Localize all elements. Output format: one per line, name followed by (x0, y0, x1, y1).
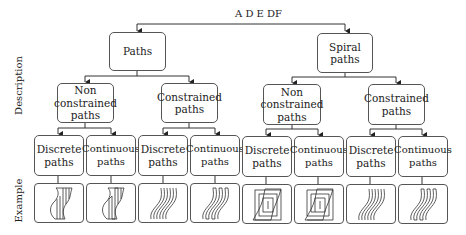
example-zigzag-discrete (34, 183, 84, 223)
example-spiral-discrete (242, 184, 292, 224)
zigzag-continuous-icon (87, 184, 136, 223)
spiral-continuous-icon (295, 185, 344, 224)
node-label: Discrete paths (349, 144, 394, 169)
node-label: Continuous paths (186, 143, 244, 168)
node-label: Paths (123, 45, 152, 58)
zigzag-discrete-icon (35, 184, 84, 223)
row-label-example: Example (13, 183, 24, 223)
node-continuous-paths: Continuous paths (398, 136, 448, 177)
node-spiral-constrained-paths: Constrained paths (368, 84, 425, 125)
top-label: A D E DF (235, 8, 282, 19)
node-spiral-paths: Spiral paths (317, 33, 373, 73)
example-zigzag-continuous (86, 183, 136, 223)
spiral-discrete-icon (243, 185, 292, 224)
node-label: Discrete paths (141, 143, 186, 168)
example-spiral-continuous (294, 184, 344, 224)
node-continuous-paths: Continuous paths (294, 136, 344, 177)
parallel-offset-discrete-icon (347, 185, 396, 224)
node-label: Continuous paths (82, 143, 140, 168)
example-parallel-offset-continuous (190, 183, 240, 223)
node-discrete-paths: Discrete paths (242, 136, 292, 177)
node-spiral-non-constrained-paths: Non constrained paths (263, 84, 321, 125)
node-label: Non constrained paths (54, 84, 117, 122)
node-discrete-paths: Discrete paths (138, 135, 188, 176)
example-parallel-offset-continuous (398, 184, 448, 224)
node-discrete-paths: Discrete paths (346, 136, 396, 177)
node-non-constrained-paths: Non constrained paths (57, 83, 114, 123)
node-discrete-paths: Discrete paths (34, 135, 84, 176)
node-label: Discrete paths (245, 144, 290, 169)
example-parallel-offset-discrete (346, 184, 396, 224)
node-label: Constrained paths (364, 92, 429, 117)
node-label: Non constrained paths (261, 86, 324, 124)
parallel-offset-discrete-icon (139, 184, 188, 223)
node-label: Spiral paths (328, 41, 362, 66)
node-constrained-paths: Constrained paths (161, 83, 218, 123)
node-continuous-paths: Continuous paths (86, 135, 136, 176)
example-parallel-offset-discrete (138, 183, 188, 223)
node-label: Continuous paths (290, 144, 348, 169)
node-paths: Paths (109, 32, 166, 71)
row-label-description: Description (13, 56, 24, 116)
parallel-offset-continuous-icon (399, 185, 448, 224)
parallel-offset-continuous-icon (191, 184, 240, 223)
node-label: Discrete paths (37, 143, 82, 168)
node-label: Continuous paths (394, 144, 452, 169)
node-label: Constrained paths (157, 91, 222, 116)
node-continuous-paths: Continuous paths (190, 135, 240, 176)
